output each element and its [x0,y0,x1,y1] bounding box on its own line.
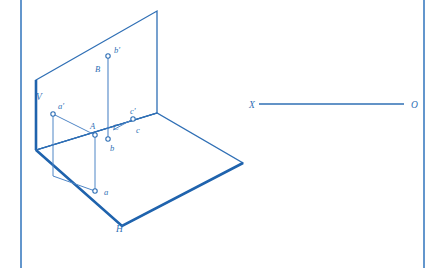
point-marker-a [93,189,97,193]
label-plane-h: H [115,224,124,234]
label-plane-v: V [36,92,43,102]
segment-a-to-base [53,176,95,191]
label-point-b: b [110,143,114,153]
label-point-c: c [136,125,140,135]
segment-aprime-A [53,114,95,135]
label-point-A: A [89,121,96,131]
label-point-C: C [113,122,119,132]
label-ground-line-o: O [411,100,418,110]
label-point-c-prime: c' [130,106,136,116]
label-point-a-prime: a' [58,101,64,111]
point-marker-b [106,137,110,141]
label-point-a: a [104,187,108,197]
point-marker-b-prime [106,54,110,58]
descriptive-geometry-figure: V H a' A a b' B b C c' c X O [0,0,434,268]
point-marker-A [93,133,97,137]
label-point-b-prime: b' [114,45,120,55]
figure-canvas: V H a' A a b' B b C c' c X O [0,0,434,268]
point-marker-c-prime [131,117,135,121]
point-marker-a-prime [51,112,55,116]
label-ground-line-x: X [248,100,256,110]
label-point-B: B [95,64,100,74]
h-plane-front-edges-heavy [36,150,243,226]
